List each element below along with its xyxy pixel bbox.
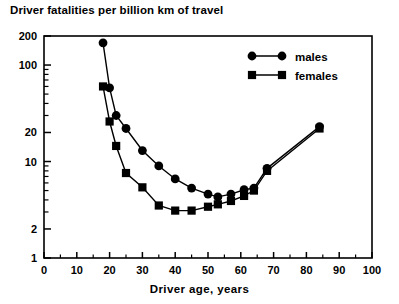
x-tick-label: 40 [169,264,181,276]
legend-marker-females [278,71,286,79]
y-tick-label: 100 [19,59,37,71]
data-point-males [213,192,222,201]
x-tick-label: 100 [363,264,381,276]
x-tick-label: 70 [267,264,279,276]
y-tick-label: 2 [31,223,37,235]
data-point-females [155,201,163,209]
data-point-males [171,175,180,184]
x-tick-label: 30 [136,264,148,276]
data-point-males [154,162,163,171]
data-point-females [250,186,258,194]
x-tick-label: 20 [103,264,115,276]
data-point-males [204,190,213,199]
fatalities-by-age-chart: Driver fatalities per billion km of trav… [0,0,399,304]
x-tick-label: 0 [41,264,47,276]
y-tick-label: 200 [19,30,37,42]
x-tick-label: 50 [202,264,214,276]
data-point-females [227,197,235,205]
data-point-females [240,192,248,200]
data-point-males [187,184,196,193]
data-point-females [263,167,271,175]
x-tick-label: 80 [300,264,312,276]
x-tick-label: 90 [333,264,345,276]
y-tick-label: 20 [25,126,37,138]
chart-plot-area: 0102030405060708090100121020100200malesf… [0,0,399,304]
data-point-females [138,183,146,191]
data-point-females [214,200,222,208]
data-point-females [112,142,120,150]
y-tick-label: 1 [31,252,37,264]
x-tick-label: 10 [71,264,83,276]
data-point-females [106,117,114,125]
legend-marker-males [248,52,257,61]
data-point-females [188,206,196,214]
data-point-males [99,38,108,47]
data-point-males [138,146,147,155]
legend-label-females: females [295,70,338,82]
legend-marker-females [248,71,256,79]
legend-marker-males [278,52,287,61]
data-point-males [122,124,131,133]
legend-label-males: males [295,51,328,63]
data-point-females [204,203,212,211]
y-tick-label: 10 [25,156,37,168]
data-point-females [122,169,130,177]
x-axis-label: Driver age, years [0,283,399,295]
data-point-females [315,124,323,132]
series-line-males [103,43,319,197]
x-tick-label: 60 [235,264,247,276]
data-point-females [99,82,107,90]
data-point-females [171,206,179,214]
